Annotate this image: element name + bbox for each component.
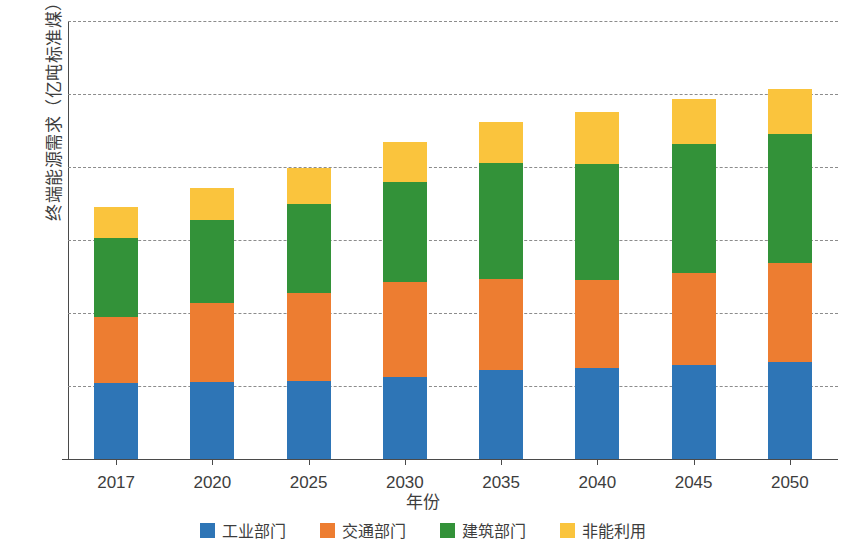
plot-area: 024681012 201720202025203020352040204520… — [68, 21, 838, 459]
legend-item[interactable]: 非能利用 — [560, 518, 646, 542]
bar-segment[interactable] — [383, 142, 427, 181]
x-axis-tick-mark — [309, 459, 310, 465]
y-axis-title: 终端能源需求（亿吨标准煤） — [43, 0, 67, 257]
x-axis-title: 年份 — [0, 488, 845, 513]
legend-item-label: 工业部门 — [222, 518, 286, 542]
stacked-bar-chart: 终端能源需求（亿吨标准煤） 024681012 2017202020252030… — [0, 0, 845, 545]
gridline — [68, 313, 838, 314]
gridline — [68, 167, 838, 168]
legend-swatch-icon — [440, 523, 455, 538]
bar-segment[interactable] — [190, 220, 234, 303]
bar-segment[interactable] — [672, 365, 716, 459]
bar-segment[interactable] — [672, 99, 716, 144]
bar-segment[interactable] — [287, 293, 331, 381]
bar-segment[interactable] — [672, 144, 716, 272]
bar-segment[interactable] — [190, 188, 234, 220]
legend-item[interactable]: 建筑部门 — [440, 518, 526, 542]
bar-segment[interactable] — [672, 273, 716, 365]
x-axis-tick-mark — [501, 459, 502, 465]
x-axis-tick-mark — [790, 459, 791, 465]
bar-segment[interactable] — [94, 383, 138, 459]
bar-segment[interactable] — [383, 377, 427, 459]
bar-segment[interactable] — [575, 280, 619, 368]
x-axis-tick-mark — [694, 459, 695, 465]
legend-item-label: 交通部门 — [342, 518, 406, 542]
bar-segment[interactable] — [479, 122, 523, 163]
x-axis-line — [68, 459, 838, 460]
bar-segment[interactable] — [768, 362, 812, 459]
bar-segment[interactable] — [479, 279, 523, 369]
bar-segment[interactable] — [190, 303, 234, 383]
legend-item[interactable]: 交通部门 — [320, 518, 406, 542]
bar-segment[interactable] — [768, 263, 812, 362]
legend-item[interactable]: 工业部门 — [200, 518, 286, 542]
bar-segment[interactable] — [287, 381, 331, 459]
legend-swatch-icon — [320, 523, 335, 538]
bar-segment[interactable] — [94, 207, 138, 238]
bar-segment[interactable] — [190, 382, 234, 459]
bar-segment[interactable] — [479, 370, 523, 459]
bar-segment[interactable] — [287, 168, 331, 203]
bar-segment[interactable] — [94, 238, 138, 316]
chart-legend: 工业部门交通部门建筑部门非能利用 — [0, 518, 845, 542]
gridline — [68, 386, 838, 387]
x-axis-tick-mark — [597, 459, 598, 465]
bar-segment[interactable] — [383, 282, 427, 377]
x-axis-tick-mark — [405, 459, 406, 465]
gridline — [68, 94, 838, 95]
x-axis-tick-mark — [116, 459, 117, 465]
bar-segment[interactable] — [479, 163, 523, 280]
x-axis-tick-mark — [212, 459, 213, 465]
bar-segment[interactable] — [575, 112, 619, 164]
bar-segment[interactable] — [575, 164, 619, 280]
bar-segment[interactable] — [768, 134, 812, 263]
bar-segment[interactable] — [94, 317, 138, 383]
y-axis-tick-mark — [62, 459, 68, 460]
gridline — [68, 240, 838, 241]
legend-swatch-icon — [560, 523, 575, 538]
bar-segment[interactable] — [575, 368, 619, 459]
legend-swatch-icon — [200, 523, 215, 538]
bar-segment[interactable] — [383, 182, 427, 282]
legend-item-label: 非能利用 — [582, 518, 646, 542]
bar-segment[interactable] — [287, 204, 331, 293]
bar-segment[interactable] — [768, 89, 812, 135]
gridline — [68, 21, 838, 22]
legend-item-label: 建筑部门 — [462, 518, 526, 542]
